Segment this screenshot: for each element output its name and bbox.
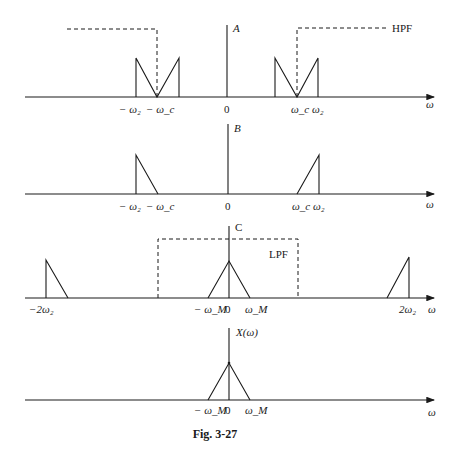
hpf-label: HPF [392,22,412,34]
tick-zero: 0 [224,103,230,115]
spectrum-positive [275,58,318,97]
tick-neg-wM: − ω_M [194,404,227,416]
tick-zero: 0 [225,404,231,416]
spectrum-diagram: A HPF − ω₂ − ω_c 0 ω_c ω₂ ω B − ω₂ − ω_c… [0,0,462,450]
panel-a: A HPF − ω₂ − ω_c 0 ω_c ω₂ ω [25,22,434,115]
hpf-response-negative [67,29,157,97]
axis-symbol: ω [428,303,436,315]
tick-wc: ω_c [292,200,310,212]
tick-w2: ω₂ [313,200,325,212]
tick-neg-wM: − ω_M [194,303,227,315]
spectrum-positive [297,155,319,194]
panel-b: B − ω₂ − ω_c 0 ω_c ω₂ ω [25,122,434,212]
tick-w2: ω₂ [312,103,324,115]
axis-symbol: ω [428,406,436,418]
tick-pos-2w2: 2ω₂ [399,303,416,315]
figure-caption: Fig. 3-27 [193,427,238,441]
spectrum-negative [136,155,158,194]
tick-neg-w2: − ω₂ [119,200,141,212]
tick-wc: ω_c [291,103,309,115]
peak-dot [228,362,231,365]
tick-neg-w2: − ω₂ [119,103,141,115]
panel-title: A [232,22,240,34]
spectrum-pos-2w2 [387,257,409,298]
spectrum-neg-2w2 [46,260,68,298]
tick-wM: ω_M [245,404,268,416]
tick-zero: 0 [225,200,231,212]
panel-x: X(ω) − ω_M 0 ω_M ω [25,326,436,418]
hpf-response-positive [297,28,387,97]
panel-title: C [235,221,242,233]
lpf-label: LPF [269,248,288,260]
tick-neg-2w2: −2ω₂ [29,303,54,315]
spectrum-negative [136,58,179,97]
tick-zero: 0 [225,303,231,315]
tick-wM: ω_M [245,303,268,315]
axis-symbol: ω [426,98,434,110]
panel-title: B [234,122,241,134]
tick-neg-wc: − ω_c [146,200,174,212]
panel-c: C LPF −2ω₂ − ω_M 0 ω_M 2ω₂ ω [25,221,436,315]
axis-symbol: ω [426,198,434,210]
panel-title: X(ω) [235,326,258,339]
tick-neg-wc: − ω_c [146,103,174,115]
